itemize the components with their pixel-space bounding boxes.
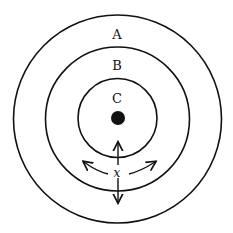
concentric-circle-diagram: A B C x bbox=[0, 0, 233, 233]
curved-arrow-left-icon bbox=[84, 162, 108, 174]
center-dot bbox=[111, 111, 125, 125]
diagram-canvas: A B C x bbox=[0, 0, 233, 233]
curved-arrow-right-icon bbox=[129, 162, 155, 174]
label-c: C bbox=[112, 91, 122, 106]
variable-x-label: x bbox=[114, 166, 121, 180]
label-b: B bbox=[112, 58, 122, 73]
label-a: A bbox=[111, 27, 122, 42]
